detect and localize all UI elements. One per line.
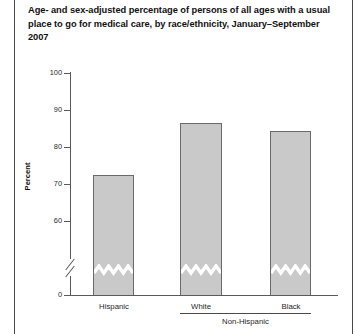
y-tick-mark-90 xyxy=(64,110,70,111)
y-tick-mark-80 xyxy=(64,147,70,148)
y-axis-title: Percent xyxy=(23,147,32,207)
y-tick-label-70: 70 xyxy=(22,180,62,188)
figure-page: Age- and sex-adjusted percentage of pers… xyxy=(0,0,364,334)
x-category-label-white: White xyxy=(170,302,232,311)
bar-break-hispanic xyxy=(94,264,133,276)
bar-chart-plot: Percent 100 90 80 70 60 0 xyxy=(0,0,364,334)
y-tick-label-100: 100 xyxy=(22,69,62,77)
y-tick-mark-60 xyxy=(64,221,70,222)
x-category-label-hispanic: Hispanic xyxy=(83,302,145,311)
y-tick-label-60: 60 xyxy=(22,217,62,225)
bar-break-white xyxy=(181,264,221,276)
group-bracket-non-hispanic xyxy=(180,313,311,314)
y-axis-break-icon xyxy=(62,258,78,278)
y-tick-label-90: 90 xyxy=(22,106,62,114)
x-category-label-black: Black xyxy=(260,302,322,311)
group-label-non-hispanic: Non-Hispanic xyxy=(180,317,311,326)
bar-hispanic xyxy=(93,175,134,295)
y-tick-mark-70 xyxy=(64,184,70,185)
y-tick-mark-100 xyxy=(64,73,70,74)
y-tick-label-0: 0 xyxy=(22,291,62,299)
x-axis-line xyxy=(70,295,338,296)
y-tick-label-80: 80 xyxy=(22,143,62,151)
bar-break-black xyxy=(271,264,310,276)
